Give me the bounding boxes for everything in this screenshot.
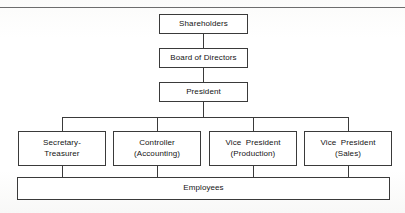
drop-secretary-treasurer-to-employees: [62, 166, 63, 177]
node-board-of-directors[interactable]: Board of Directors: [159, 48, 248, 68]
node-vice-president-production[interactable]: Vice President (Production): [209, 131, 297, 166]
node-controller[interactable]: Controller (Accounting): [113, 131, 201, 166]
drop-vp-sales-to-employees: [348, 166, 349, 177]
drop-bus-to-secretary-treasurer: [62, 117, 63, 131]
drop-controller-to-employees: [157, 166, 158, 177]
org-chart-page: Shareholders Board of Directors Presiden…: [0, 0, 405, 213]
node-president[interactable]: President: [159, 82, 248, 102]
connector-board-to-president: [203, 68, 204, 82]
drop-bus-to-vp-production: [253, 117, 254, 131]
drop-bus-to-controller: [157, 117, 158, 131]
connector-shareholders-to-board: [203, 34, 204, 48]
connector-president-to-bus: [203, 102, 204, 117]
distribution-bar-officers: [62, 117, 349, 118]
drop-bus-to-vp-sales: [348, 117, 349, 131]
node-shareholders[interactable]: Shareholders: [159, 14, 248, 34]
node-secretary-treasurer[interactable]: Secretary- Treasurer: [18, 131, 106, 166]
page-top-rule: [0, 7, 405, 8]
drop-vp-production-to-employees: [253, 166, 254, 177]
node-vice-president-sales[interactable]: Vice President (Sales): [304, 131, 392, 166]
node-employees[interactable]: Employees: [17, 177, 390, 200]
